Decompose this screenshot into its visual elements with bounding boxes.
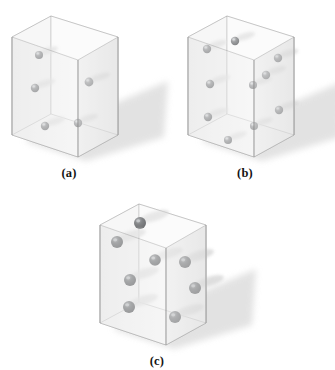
panel-b: (b) (180, 8, 310, 188)
figure-root: (a)(b)(c) (0, 0, 335, 370)
panel-a-illustration (4, 8, 154, 178)
panel-c-illustration (92, 196, 242, 366)
panel-b-label: (b) (180, 166, 310, 181)
panel-b-illustration (180, 8, 330, 178)
panel-c-label: (c) (92, 354, 222, 369)
panel-a-label: (a) (4, 166, 134, 181)
panel-c: (c) (92, 196, 222, 370)
panel-a: (a) (4, 8, 134, 188)
